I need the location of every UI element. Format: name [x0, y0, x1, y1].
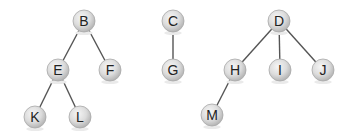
node-label: F: [106, 62, 115, 78]
node-label: I: [278, 62, 282, 78]
node-m: M: [201, 104, 223, 129]
node-label: J: [320, 62, 327, 78]
node-j: J: [312, 59, 334, 84]
node-b: B: [73, 10, 95, 35]
node-i: I: [269, 59, 291, 84]
node-label: K: [30, 109, 40, 125]
node-label: G: [168, 62, 179, 78]
nodes-layer: BEFKLCGDHIJM: [24, 10, 334, 131]
node-label: B: [79, 13, 88, 29]
node-k: K: [24, 106, 46, 131]
node-c: C: [162, 10, 184, 35]
node-label: D: [274, 13, 284, 29]
node-label: L: [76, 109, 84, 125]
node-h: H: [224, 59, 246, 84]
node-label: H: [230, 62, 240, 78]
node-f: F: [99, 59, 121, 84]
node-label: C: [168, 13, 178, 29]
tree-forest-diagram: BEFKLCGDHIJM: [0, 0, 352, 140]
node-e: E: [47, 59, 69, 84]
node-label: E: [53, 62, 62, 78]
node-label: M: [206, 107, 218, 123]
node-d: D: [268, 10, 290, 35]
node-g: G: [162, 59, 184, 84]
node-l: L: [69, 106, 91, 131]
